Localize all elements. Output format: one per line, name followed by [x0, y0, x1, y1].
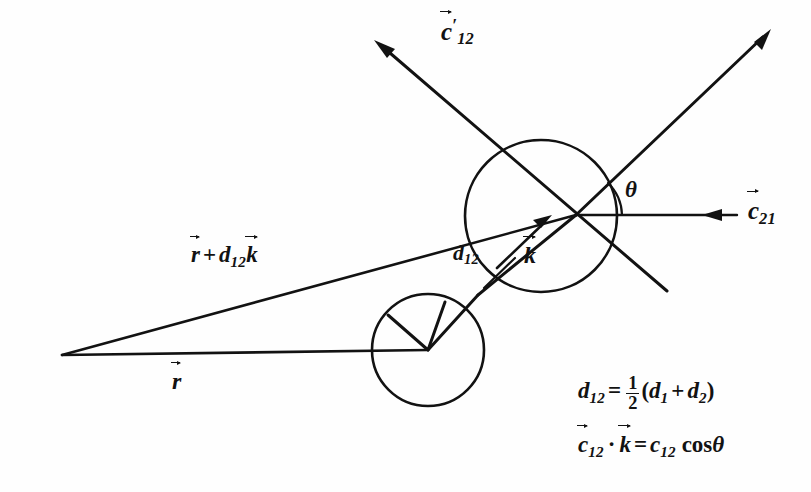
r-plus-d12k-line — [62, 215, 576, 355]
eq1-frac-denominator: 2 — [626, 393, 639, 413]
d12-vector-line — [428, 295, 478, 350]
eq2-equals: = — [631, 432, 650, 457]
eq2-lhs-base: c — [578, 432, 588, 457]
eq1-plus: + — [668, 378, 687, 403]
eq1-lhs-sub: 12 — [590, 389, 606, 406]
eq1-lhs-base: d — [578, 378, 590, 403]
label-rpd-plus: + — [200, 242, 219, 267]
label-r-plus-d12-k: r+d12k — [191, 243, 258, 269]
equation-dot-product: c12·k=c12 cosθ — [578, 432, 724, 461]
label-k-base: k — [524, 242, 536, 268]
c21-arrowhead — [702, 209, 722, 221]
diagram-canvas — [0, 0, 811, 492]
label-r-base: r — [172, 368, 181, 394]
collision-geometry-figure: c′12 c21 θ d12 k r+d12k r d12=12(d1+d2) … — [0, 0, 811, 492]
label-d12: d12 — [453, 242, 479, 267]
label-k-vector: k — [524, 243, 536, 267]
eq2-rhs-sub: 12 — [660, 443, 676, 460]
eq2-rhs-base: c — [650, 432, 660, 457]
label-c12-prime-base: c — [441, 18, 452, 45]
label-rpd-k: k — [246, 242, 258, 267]
c12-ray-arrowhead — [754, 29, 771, 50]
eq1-open-paren: ( — [641, 378, 649, 403]
eq2-theta: θ — [712, 432, 724, 457]
label-c12-prime: c′12 — [441, 17, 474, 48]
eq1-term2-base: d — [687, 378, 699, 403]
eq1-close-paren: ) — [707, 378, 715, 403]
c12-ray-line — [576, 37, 763, 215]
eq2-k: k — [619, 432, 631, 457]
label-c21: c21 — [748, 198, 776, 227]
label-rpd-d: d — [219, 242, 231, 267]
eq1-term2-sub: 2 — [699, 389, 707, 406]
label-d12-sub: 12 — [464, 251, 479, 267]
eq1-frac-numerator: 1 — [626, 374, 639, 393]
label-c21-base: c — [748, 197, 759, 224]
label-r-vector: r — [172, 369, 181, 393]
eq1-term1-base: d — [649, 378, 661, 403]
label-c21-sub: 21 — [759, 209, 776, 228]
label-theta: θ — [625, 178, 637, 201]
eq2-cos: cos — [682, 432, 713, 457]
label-rpd-d-sub: 12 — [231, 253, 247, 270]
label-rpd-r: r — [191, 242, 200, 267]
d12-leader-tick — [484, 258, 515, 288]
label-c12-prime-sub: 12 — [457, 29, 474, 48]
label-d12-base: d — [453, 240, 464, 265]
eq1-fraction: 12 — [626, 374, 639, 413]
equation-d12-definition: d12=12(d1+d2) — [578, 374, 714, 413]
eq2-dot-operator: · — [604, 432, 620, 457]
eq2-lhs-sub: 12 — [588, 443, 604, 460]
eq1-equals: = — [605, 378, 624, 403]
